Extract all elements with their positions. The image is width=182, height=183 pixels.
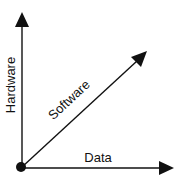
origin-dot-icon <box>16 162 26 172</box>
three-axis-diagram: Hardware Software Data <box>0 0 182 183</box>
software-label: Software <box>45 77 93 123</box>
software-axis-line <box>22 61 137 167</box>
hardware-arrowhead-icon <box>15 12 29 27</box>
data-label: Data <box>84 150 112 165</box>
data-arrowhead-icon <box>159 161 174 175</box>
hardware-label: Hardware <box>3 57 18 113</box>
